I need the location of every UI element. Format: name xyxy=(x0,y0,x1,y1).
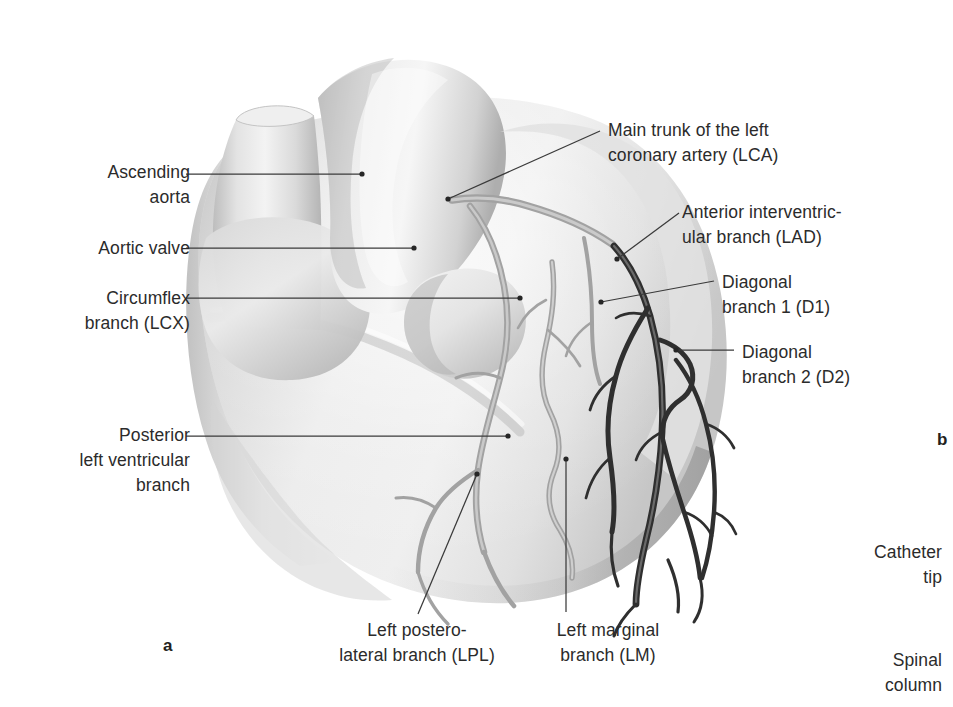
dot-main-trunk-lca xyxy=(445,196,450,201)
dot-circumflex xyxy=(517,295,522,300)
label-left-marginal-branch: Left marginal branch (LM) xyxy=(520,618,696,668)
right-border-twig-2 xyxy=(714,512,736,534)
label-circumflex-branch: Circumflex branch (LCX) xyxy=(10,286,190,336)
dot-ascending-aorta xyxy=(359,171,364,176)
label-diagonal-branch-1: Diagonal branch 1 (D1) xyxy=(722,270,953,320)
dot-aortic-valve xyxy=(411,245,416,250)
panel-letter-a: a xyxy=(163,636,172,656)
label-diagonal-branch-2: Diagonal branch 2 (D2) xyxy=(742,340,953,390)
figure-page: Ascending aorta Aortic valve Circumflex … xyxy=(0,0,953,707)
label-aortic-valve: Aortic valve xyxy=(10,236,190,261)
apical-twig-right xyxy=(694,578,702,622)
dot-posterior-lv xyxy=(505,433,510,438)
apical-fork xyxy=(668,560,679,612)
label-left-posterolateral-branch: Left postero- lateral branch (LPL) xyxy=(322,618,512,668)
label-posterior-left-ventricular-branch: Posterior left ventricular branch xyxy=(10,423,190,498)
label-anterior-interventricular-branch: Anterior interventric- ular branch (LAD) xyxy=(682,200,953,250)
panel-letter-b: b xyxy=(937,430,947,450)
dot-lm xyxy=(563,456,568,461)
dot-lpl xyxy=(474,471,479,476)
label-catheter-tip: Catheter tip xyxy=(790,540,942,590)
label-spinal-column: Spinal column xyxy=(790,648,942,698)
dot-d1 xyxy=(598,299,603,304)
label-ascending-aorta: Ascending aorta xyxy=(10,160,190,210)
dot-d2 xyxy=(673,347,678,352)
dot-lad xyxy=(614,256,619,261)
label-main-trunk-lca: Main trunk of the left coronary artery (… xyxy=(608,118,953,168)
